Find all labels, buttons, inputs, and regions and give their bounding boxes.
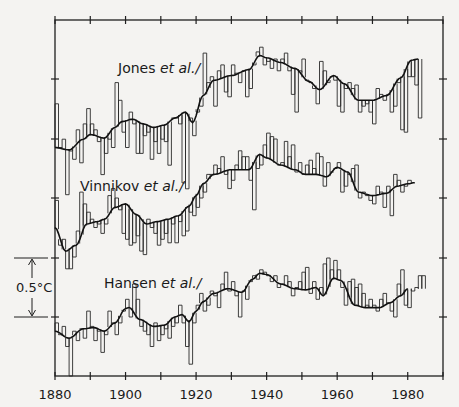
series-label: Hansen et al./	[104, 275, 203, 291]
series-label-etal: et al./	[160, 60, 201, 76]
series-label: Vinnikov et al./	[80, 178, 185, 194]
x-tick-label: 1960	[321, 387, 354, 402]
series-label-etal: et al./	[161, 275, 202, 291]
x-tick-label: 1900	[109, 387, 142, 402]
smoothed-curve	[55, 56, 418, 150]
series-label-author: Vinnikov	[80, 178, 144, 194]
series-hansen: Hansen et al./	[55, 258, 425, 376]
x-tick-label: 1940	[250, 387, 283, 402]
x-tick-label: 1920	[180, 387, 213, 402]
series-label-author: Jones	[117, 60, 160, 76]
series-label-etal: et al./	[144, 178, 185, 194]
scale-bar-label: 0.5°C	[16, 280, 52, 295]
series-group: Jones et al./Vinnikov et al./Hansen et a…	[55, 47, 425, 376]
x-tick-label: 1980	[391, 387, 424, 402]
series-label-author: Hansen	[104, 275, 161, 291]
series-jones: Jones et al./	[55, 47, 422, 195]
temperature-chart: 188019001920194019601980 Jones et al./Vi…	[0, 0, 459, 407]
series-vinnikov: Vinnikov et al./	[55, 133, 415, 269]
annual-step-bars	[55, 47, 422, 195]
annual-step-bars	[55, 133, 411, 269]
x-axis-tick-labels: 188019001920194019601980	[38, 387, 424, 402]
series-label: Jones et al./	[117, 60, 201, 76]
scale-bar: 0.5°C	[14, 258, 52, 317]
x-tick-label: 1880	[38, 387, 71, 402]
